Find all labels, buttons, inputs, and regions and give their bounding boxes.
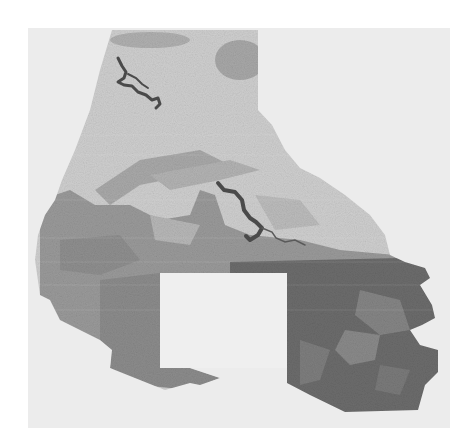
land-patch [110, 32, 190, 48]
map-panel [28, 28, 450, 428]
rectangular-excluded-area [160, 273, 287, 368]
land-patch [215, 40, 265, 80]
land-cover-map [28, 28, 450, 428]
